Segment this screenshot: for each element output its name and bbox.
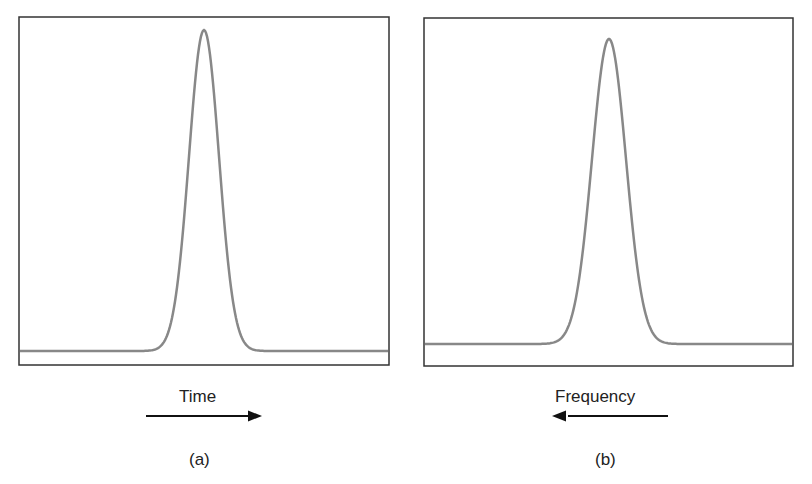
panel-a-caption: (a) [189,450,210,470]
frequency-arrow-left-icon [552,411,668,422]
panel-a-frame [19,17,389,365]
panel-b-caption: (b) [595,450,616,470]
time-arrow-right-icon [146,411,262,422]
panel-b-frame [424,18,793,366]
frequency-axis-label: Frequency [555,387,635,407]
figure-canvas [0,0,812,484]
panel-a-pulse-curve [20,30,388,351]
time-axis-label: Time [179,387,216,407]
panel-b-spectrum-curve [425,39,792,344]
